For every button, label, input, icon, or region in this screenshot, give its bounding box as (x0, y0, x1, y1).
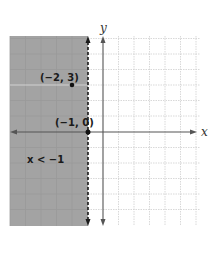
shaded-region (10, 36, 88, 226)
point-marker-b (86, 130, 91, 135)
x-axis-label: x (201, 125, 208, 139)
inequality-label: x < −1 (27, 154, 64, 165)
y-axis-down-arrow-icon (101, 219, 106, 226)
grid-horizontal (88, 39, 200, 210)
y-axis-label: y (99, 21, 107, 35)
y-axis (101, 36, 106, 226)
point-label-b: (−1, 0) (55, 117, 94, 128)
point-label-a: (−2, 3) (40, 72, 79, 83)
inequality-graph: x y (−2, 3) (−1, 0) x < −1 (0, 0, 220, 256)
y-axis-up-arrow-icon (101, 36, 106, 43)
point-marker-a (70, 83, 75, 88)
